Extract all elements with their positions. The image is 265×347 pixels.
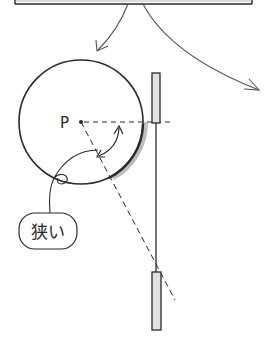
top-box [15,0,252,4]
lower-plate [152,272,161,330]
callout-leader [50,150,99,212]
point-p-label: P [60,114,69,132]
callout-label: 狭い [31,222,65,242]
angle-arrow [97,126,123,157]
left-curved-arrow [96,4,128,51]
callout-bubble: 狭い [19,213,77,249]
upper-plate [152,73,160,123]
diagram-canvas: P 狭い [0,0,265,347]
